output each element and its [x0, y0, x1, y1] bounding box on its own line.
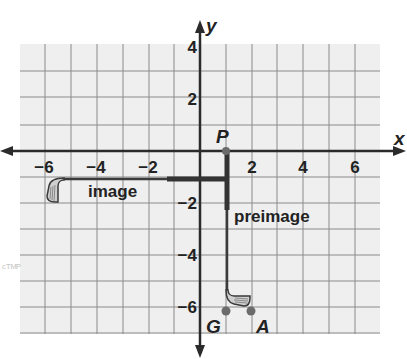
- x-axis-left-arrow-icon: [0, 146, 13, 156]
- y-tick-label: 2: [188, 90, 197, 109]
- point-a: [247, 307, 256, 316]
- coordinate-plane-figure: y x −6 −4 −2 2 4 6 4 2 −2 −4 −6: [0, 0, 407, 359]
- x-tick-label: −2: [138, 158, 157, 177]
- x-tick-label: −4: [86, 158, 106, 177]
- x-tick-label: 4: [298, 158, 308, 177]
- image-label: image: [88, 182, 137, 201]
- preimage-club-grip: [225, 151, 230, 210]
- y-axis-up-arrow-icon: [195, 20, 205, 33]
- y-axis-label: y: [205, 15, 218, 36]
- x-tick-label: −6: [34, 158, 53, 177]
- y-tick-label: −6: [178, 298, 197, 317]
- x-axis-label: x: [393, 128, 406, 149]
- y-axis-down-arrow-icon: [195, 345, 205, 358]
- point-g-label: G: [206, 316, 221, 337]
- point-g: [222, 307, 231, 316]
- preimage-label: preimage: [234, 207, 310, 226]
- point-p: [222, 147, 230, 155]
- image-club-grip: [167, 177, 226, 182]
- y-tick-label: 4: [188, 38, 198, 57]
- y-tick-label: −2: [178, 194, 197, 213]
- point-a-label: A: [255, 316, 270, 337]
- x-tick-label: 2: [247, 158, 256, 177]
- y-tick-label: −4: [178, 246, 198, 265]
- x-tick-label: 6: [350, 158, 359, 177]
- faint-scan-mark: ᶜᵀᴹᴾ: [2, 262, 21, 274]
- coordinate-plane: y x −6 −4 −2 2 4 6 4 2 −2 −4 −6: [0, 0, 407, 359]
- point-p-label: P: [216, 126, 229, 147]
